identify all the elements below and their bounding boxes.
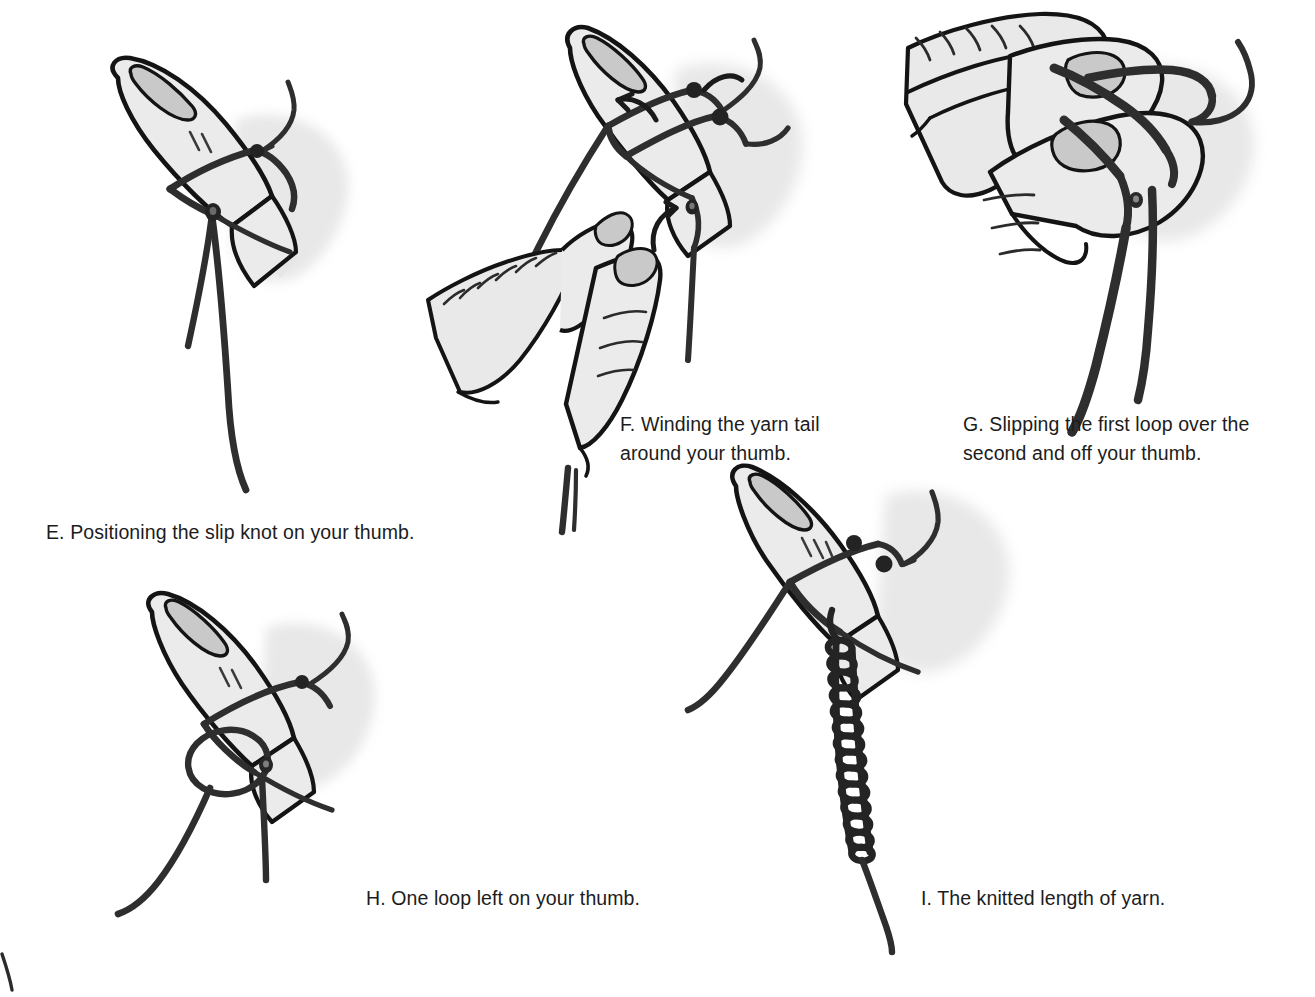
panel-G: G. Slipping the first loop over the seco… <box>880 0 1315 480</box>
thumb-shape <box>732 466 898 700</box>
small-loop-marker <box>1129 192 1143 208</box>
yarn-strand-vertical <box>562 468 576 532</box>
panel-E-caption: E. Positioning the slip knot on your thu… <box>46 518 476 547</box>
panel-E: E. Positioning the slip knot on your thu… <box>0 0 420 560</box>
panel-I: I. The knitted length of yarn. <box>680 460 1315 960</box>
panel-H-caption: H. One loop left on your thumb. <box>366 884 696 913</box>
panel-E-illustration <box>0 0 420 560</box>
panel-G-illustration <box>880 0 1315 480</box>
instruction-sheet-page: E. Positioning the slip knot on your thu… <box>0 0 1315 997</box>
stray-pen-mark <box>0 950 40 997</box>
yarn-tail-bottom <box>862 860 892 952</box>
panel-H: H. One loop left on your thumb. <box>110 580 710 960</box>
panel-I-caption: I. The knitted length of yarn. <box>921 884 1251 913</box>
cast-shadow <box>876 491 1009 673</box>
yarn-tail-left <box>118 788 210 914</box>
